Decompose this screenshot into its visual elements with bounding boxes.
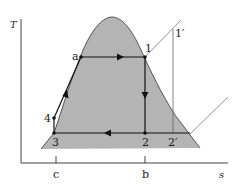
- tick-label-c: c: [53, 168, 59, 181]
- label-a: a: [72, 50, 79, 63]
- x-axis-label: s: [219, 169, 224, 180]
- line-right-diagonal: [190, 97, 228, 134]
- y-axis-label: T: [10, 19, 18, 30]
- label-1prime: 1′: [175, 27, 185, 40]
- label-4: 4: [44, 112, 51, 125]
- point-4: [52, 116, 56, 120]
- point-a: [79, 55, 83, 59]
- ts-diagram: T s c b a 1 1′ 2 2′ 3 4: [0, 0, 236, 186]
- label-3: 3: [52, 136, 59, 149]
- label-2: 2: [142, 136, 149, 149]
- point-3: [52, 131, 56, 135]
- tick-label-b: b: [142, 168, 149, 181]
- label-2prime: 2′: [168, 136, 178, 149]
- point-2: [143, 131, 147, 135]
- label-1: 1: [145, 42, 152, 55]
- point-1: [143, 55, 147, 59]
